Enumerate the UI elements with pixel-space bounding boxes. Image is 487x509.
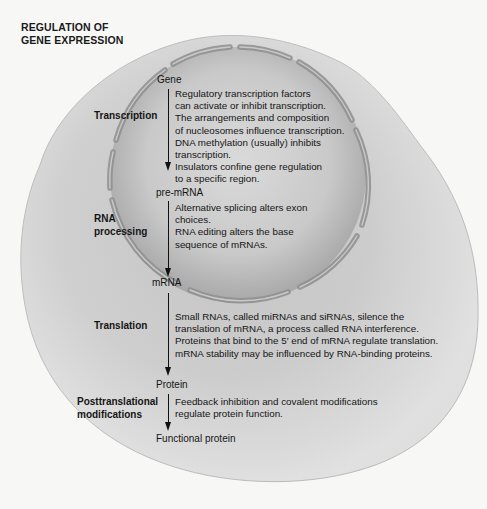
title-line-2: GENE EXPRESSION <box>21 34 123 47</box>
translation-desc-line: translation of mRNA, a process called RN… <box>175 323 438 335</box>
rna-processing-label-line-1: RNA <box>94 213 147 226</box>
translation-desc-line: Proteins that bind to the 5′ end of mRNA… <box>175 335 438 347</box>
transcription-desc-line: Regulatory transcription factors <box>175 88 344 100</box>
posttranslational-label-line-1: Posttranslational <box>77 396 158 409</box>
translation-arrow-line <box>168 293 169 368</box>
rna-processing-desc-line: Alternative splicing alters exon <box>175 202 307 214</box>
posttranslational-desc-line: Feedback inhibition and covalent modific… <box>175 396 378 408</box>
gene-label: Gene <box>157 74 181 86</box>
translation-desc-line: mRNA stability may be influenced by RNA-… <box>175 348 438 360</box>
transcription-desc-line: The arrangements and composition <box>175 112 344 124</box>
transcription-desc-line: of nucleosomes influence transcription. <box>175 125 344 137</box>
rna-processing-description: Alternative splicing alters exon choices… <box>175 202 307 251</box>
transcription-desc-line: transcription. <box>175 149 344 161</box>
posttranslational-stage-label: Posttranslational modifications <box>77 396 158 421</box>
rna-processing-label-line-2: processing <box>94 226 147 239</box>
rna-processing-arrow-head-icon <box>165 268 171 277</box>
title-line-1: REGULATION OF <box>21 21 123 34</box>
functional-protein-label: Functional protein <box>156 433 236 445</box>
transcription-description: Regulatory transcription factors can act… <box>175 88 344 186</box>
posttranslational-desc-line: regulate protein function. <box>175 408 378 420</box>
gene-expression-diagram: REGULATION OF GENE EXPRESSION Gene Trans… <box>0 0 487 509</box>
rna-processing-desc-line: choices. <box>175 214 307 226</box>
transcription-arrow-head-icon <box>165 162 171 171</box>
diagram-title: REGULATION OF GENE EXPRESSION <box>21 21 123 47</box>
transcription-stage-label: Transcription <box>94 110 157 123</box>
transcription-desc-line: can activate or inhibit transcription. <box>175 100 344 112</box>
pre-mrna-label: pre-mRNA <box>156 187 203 199</box>
posttranslational-arrow-head-icon <box>165 422 171 431</box>
transcription-desc-line: Insulators confine gene regulation <box>175 161 344 173</box>
rna-processing-arrow-line <box>168 201 169 269</box>
translation-desc-line: Small RNAs, called miRNAs and siRNAs, si… <box>175 311 438 323</box>
posttranslational-label-line-2: modifications <box>77 409 158 422</box>
posttranslational-arrow-line <box>168 394 169 424</box>
transcription-arrow-line <box>168 89 169 163</box>
protein-label: Protein <box>156 379 188 391</box>
mrna-label: mRNA <box>152 277 181 289</box>
rna-processing-stage-label: RNA processing <box>94 213 147 238</box>
translation-arrow-head-icon <box>165 367 171 376</box>
transcription-desc-line: DNA methylation (usually) inhibits <box>175 137 344 149</box>
rna-processing-desc-line: sequence of mRNAs. <box>175 239 307 251</box>
rna-processing-desc-line: RNA editing alters the base <box>175 226 307 238</box>
transcription-desc-line: to a specific region. <box>175 173 344 185</box>
translation-stage-label: Translation <box>94 320 147 333</box>
translation-description: Small RNAs, called miRNAs and siRNAs, si… <box>175 311 438 360</box>
posttranslational-description: Feedback inhibition and covalent modific… <box>175 396 378 420</box>
cell-illustration <box>0 0 487 509</box>
